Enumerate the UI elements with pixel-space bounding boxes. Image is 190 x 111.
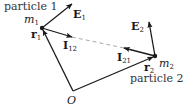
particle-1-caption: particle 1 <box>4 1 57 12</box>
origin-label: O <box>67 95 76 106</box>
particle-2-dot <box>153 54 157 58</box>
r1-label: r1 <box>31 29 41 40</box>
two-particle-diagram: particle 1 m1 r1 E1 I12 E2 I21 m2 r2 par… <box>0 0 190 111</box>
E1-sub: 1 <box>81 14 85 22</box>
E2-sub: 2 <box>139 26 143 34</box>
E1-label: E1 <box>73 9 86 20</box>
E2-label: E2 <box>131 21 144 32</box>
m1-sub: 1 <box>34 19 38 27</box>
r1-base: r <box>31 28 37 41</box>
m2-sub: 2 <box>169 63 173 71</box>
particle-2-caption: particle 2 <box>130 73 183 84</box>
m1-label: m1 <box>24 14 39 25</box>
r1-sub: 1 <box>37 34 41 42</box>
dashed-connector-line <box>72 37 124 48</box>
m1-base: m <box>24 13 34 26</box>
I12-label: I12 <box>63 40 77 51</box>
I12-sub: 12 <box>68 45 77 53</box>
I21-sub: 21 <box>122 57 131 65</box>
m2-label: m2 <box>159 58 174 69</box>
m2-base: m <box>159 57 169 70</box>
E2-vector-arrow <box>149 22 155 56</box>
I21-label: I21 <box>117 52 131 63</box>
